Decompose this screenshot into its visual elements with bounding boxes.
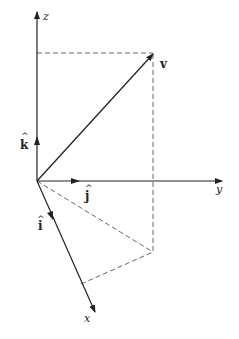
dashed-bottom-diagonal bbox=[81, 252, 153, 284]
k-unit-label: k bbox=[20, 138, 29, 152]
vector-v-label: v bbox=[159, 57, 168, 71]
j-arrowhead-icon bbox=[71, 178, 80, 184]
dashed-origin-diagonal bbox=[37, 181, 153, 252]
i-unit-label: i bbox=[38, 219, 43, 233]
x-axis-label: x bbox=[84, 312, 91, 325]
y-axis-label: y bbox=[215, 183, 223, 196]
j-unit-label: j bbox=[84, 189, 89, 203]
vector-v bbox=[37, 54, 153, 181]
k-arrowhead-icon bbox=[34, 136, 40, 145]
i-arrowhead-icon bbox=[47, 211, 53, 220]
z-axis-label: z bbox=[42, 10, 49, 23]
projection-lines bbox=[37, 53, 153, 284]
vector-diagram: z y x v ^ k ^ j ^ i bbox=[0, 0, 239, 339]
axes bbox=[37, 12, 222, 312]
unit-vector-arrowheads bbox=[34, 136, 80, 220]
